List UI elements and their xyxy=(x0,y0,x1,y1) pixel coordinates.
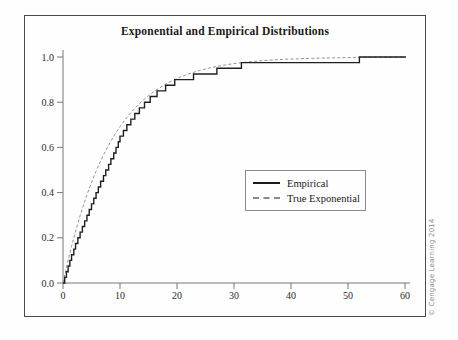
y-tick-label: 0.0 xyxy=(42,278,55,289)
x-tick-label: 0 xyxy=(61,290,66,301)
empirical-line-swatch xyxy=(253,182,280,184)
figure: Exponential and Empirical Distributions … xyxy=(0,0,458,340)
y-tick-label: 0.6 xyxy=(42,142,55,153)
y-tick-label: 0.4 xyxy=(42,187,55,198)
legend: Empirical True Exponential xyxy=(245,170,366,211)
x-tick-label: 60 xyxy=(400,290,410,301)
legend-item-empirical: Empirical xyxy=(253,178,365,189)
legend-label-empirical: Empirical xyxy=(287,178,328,189)
x-tick-label: 20 xyxy=(172,290,182,301)
copyright-credit: © Cengage Learning 2014 xyxy=(428,212,436,316)
y-tick-label: 0.8 xyxy=(42,97,55,108)
x-tick-label: 10 xyxy=(115,290,125,301)
legend-label-true-exponential: True Exponential xyxy=(287,193,360,204)
plot-area: 0.00.20.40.60.81.00102030405060 xyxy=(0,0,458,340)
axes-lines xyxy=(63,50,410,283)
x-tick-label: 40 xyxy=(286,290,296,301)
x-tick-label: 30 xyxy=(229,290,239,301)
legend-item-true-exponential: True Exponential xyxy=(253,193,365,204)
true-exponential-line-swatch xyxy=(253,197,280,199)
y-tick-label: 1.0 xyxy=(42,52,55,63)
x-tick-label: 50 xyxy=(343,290,353,301)
y-tick-label: 0.2 xyxy=(42,232,55,243)
